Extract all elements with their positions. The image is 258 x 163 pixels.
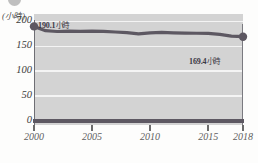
marker-point-start: [30, 22, 38, 30]
annotation-start-number: 190.1: [38, 21, 56, 30]
annotation-end-number: 169.4: [189, 57, 207, 66]
annotation-start-value: 190.1小時: [38, 19, 69, 30]
line-chart-figure: (小時) 200 150 100 50 0 2000 2005 2010 201…: [0, 0, 258, 163]
marker-point-end: [239, 32, 247, 40]
annotation-end-unit: 小時: [207, 57, 221, 66]
annotation-end-value: 169.4小時: [189, 55, 220, 66]
annotation-start-unit: 小時: [56, 21, 70, 30]
